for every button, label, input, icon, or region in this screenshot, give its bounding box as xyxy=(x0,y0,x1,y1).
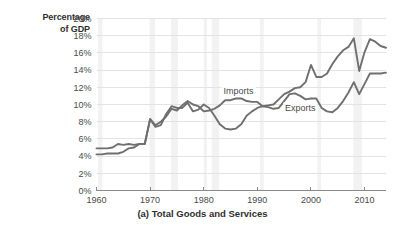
x-tick-label: 2010 xyxy=(355,195,375,205)
chart-caption: (a) Total Goods and Services xyxy=(0,208,405,219)
series-annotation-exports: Exports xyxy=(285,103,316,113)
x-tick-label: 1970 xyxy=(140,195,160,205)
y-tick-label: 16% xyxy=(73,48,91,58)
y-tick-label: 18% xyxy=(73,31,91,41)
figure-total-goods-and-services: Percentage of GDP 0%2%4%6%8%10%12%14%16%… xyxy=(0,0,405,227)
y-tick-label: 14% xyxy=(73,65,91,75)
x-tick-label-group: 196019701980199020002010 xyxy=(86,195,374,205)
gridline-group xyxy=(97,19,387,174)
x-tick-label: 1960 xyxy=(86,195,106,205)
y-tick-label: 10% xyxy=(73,100,91,110)
y-tick-label: 2% xyxy=(78,169,91,179)
series-path-group xyxy=(97,38,387,154)
y-tick-label-group: 0%2%4%6%8%10%12%14%16%18%20% xyxy=(73,14,91,196)
series-annotation-imports: Imports xyxy=(224,86,255,96)
y-tick-label: 4% xyxy=(78,151,91,161)
y-tick-label: 20% xyxy=(73,14,91,24)
y-tick-label: 6% xyxy=(78,134,91,144)
y-tick-label: 8% xyxy=(78,117,91,127)
x-tick-label: 1990 xyxy=(247,195,267,205)
x-axis-group xyxy=(97,187,387,191)
x-tick-label: 2000 xyxy=(301,195,321,205)
line-chart-plot: 0%2%4%6%8%10%12%14%16%18%20% 19601970198… xyxy=(0,0,405,210)
y-tick-label: 12% xyxy=(73,83,91,93)
x-tick-label: 1980 xyxy=(194,195,214,205)
series-line-imports xyxy=(97,38,387,154)
series-line-exports xyxy=(97,73,387,149)
